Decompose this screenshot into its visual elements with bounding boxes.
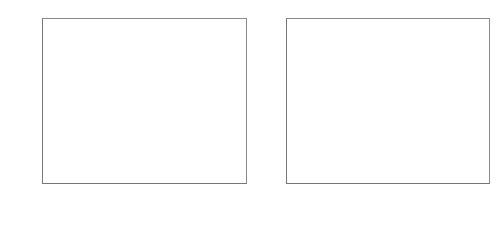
chart-panel-b — [0, 0, 250, 235]
plot-area — [286, 18, 490, 184]
